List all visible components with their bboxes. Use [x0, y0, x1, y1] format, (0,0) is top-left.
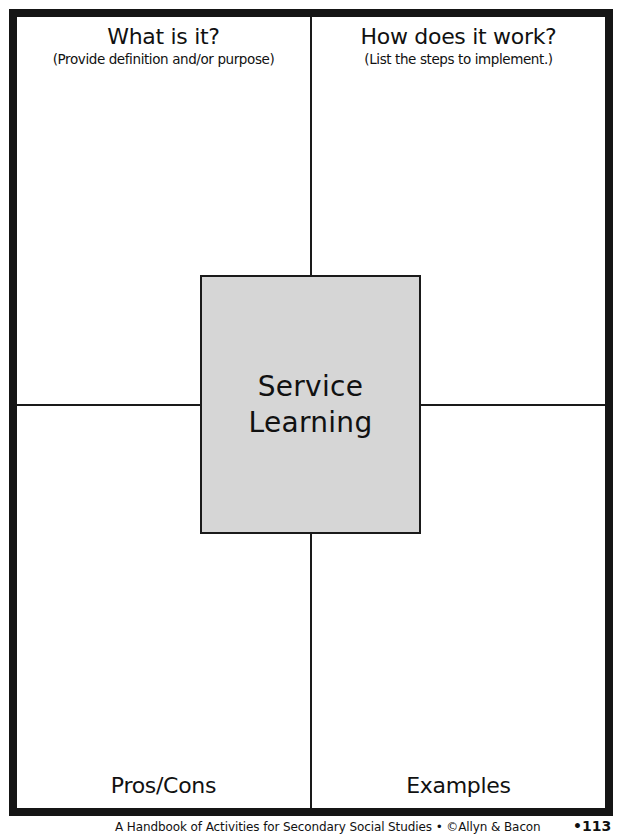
quadrant-subtitle: (List the steps to implement.) — [312, 50, 605, 68]
graphic-organizer-frame: What is it? (Provide definition and/or p… — [9, 9, 613, 816]
quadrant-title: Pros/Cons — [17, 773, 310, 799]
center-term-line: Learning — [249, 405, 373, 441]
quadrant-pros-cons: Pros/Cons — [17, 773, 310, 799]
center-term-line: Service — [258, 369, 364, 405]
center-term-box: Service Learning — [200, 275, 421, 534]
quadrant-title: Examples — [312, 773, 605, 799]
page-footer: A Handbook of Activities for Secondary S… — [0, 818, 620, 838]
quadrant-examples: Examples — [312, 773, 605, 799]
page-number: •113 — [573, 817, 611, 835]
quadrant-subtitle: (Provide definition and/or purpose) — [17, 50, 310, 68]
quadrant-how-does-it-work: How does it work? (List the steps to imp… — [312, 24, 605, 68]
footer-citation: A Handbook of Activities for Secondary S… — [115, 818, 541, 836]
quadrant-title: What is it? — [17, 24, 310, 50]
quadrant-what-is-it: What is it? (Provide definition and/or p… — [17, 24, 310, 68]
quadrant-title: How does it work? — [312, 24, 605, 50]
